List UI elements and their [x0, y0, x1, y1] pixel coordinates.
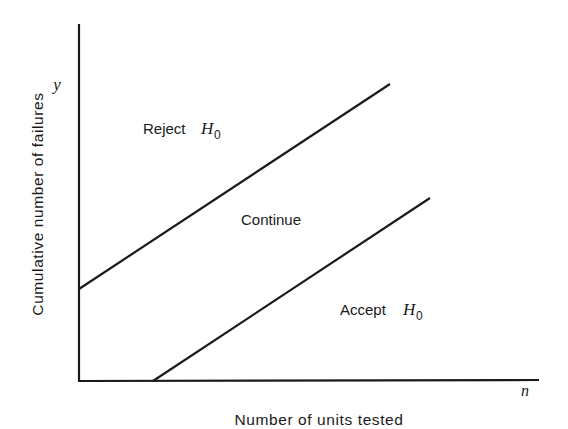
region-label-reject: Reject H 0 — [143, 119, 221, 142]
svg-text:0: 0 — [214, 128, 221, 142]
region-label-continue: Continue — [241, 211, 301, 228]
svg-text:H: H — [200, 119, 215, 138]
svg-text:0: 0 — [416, 309, 423, 323]
svg-text:Accept: Accept — [340, 301, 387, 318]
x-axis-symbol: n — [521, 382, 529, 399]
rejection-line — [79, 84, 390, 289]
region-label-accept: Accept H 0 — [340, 300, 423, 323]
x-axis-title: Number of units tested — [234, 411, 403, 428]
y-axis-title: Cumulative number of failures — [29, 92, 46, 315]
svg-text:Reject: Reject — [143, 120, 186, 137]
svg-text:H: H — [402, 300, 417, 319]
x-axis — [78, 380, 539, 381]
sequential-test-chart: y n Cumulative number of failures Number… — [0, 0, 568, 429]
y-axis-symbol: y — [51, 75, 61, 94]
